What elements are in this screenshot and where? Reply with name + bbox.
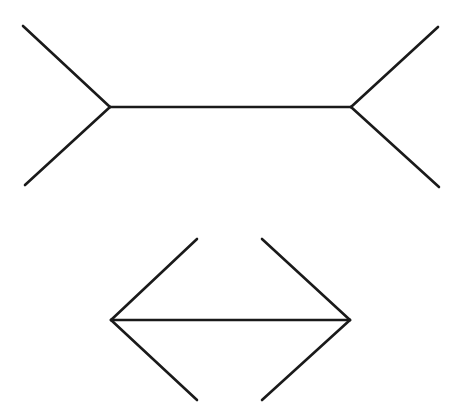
figure-outward-fins xyxy=(23,26,439,187)
fin-line xyxy=(351,107,439,187)
fin-line xyxy=(351,27,438,107)
fin-line xyxy=(262,320,350,400)
illusion-drawing xyxy=(0,0,457,420)
figure-inward-fins xyxy=(111,239,350,400)
muller-lyer-diagram xyxy=(0,0,457,420)
fin-line xyxy=(111,320,197,400)
fin-line xyxy=(23,26,110,107)
fin-line xyxy=(111,239,197,320)
fin-line xyxy=(25,107,110,185)
fin-line xyxy=(262,239,350,320)
